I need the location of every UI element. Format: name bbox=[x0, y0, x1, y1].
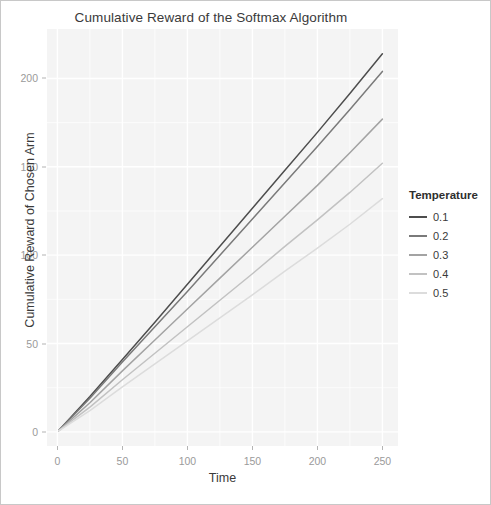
legend-item-label: 0.3 bbox=[433, 249, 448, 261]
legend-item-label: 0.5 bbox=[433, 287, 448, 299]
x-tick-label: 0 bbox=[37, 455, 77, 467]
chart-title: Cumulative Reward of the Softmax Algorit… bbox=[1, 10, 421, 25]
x-tick-label: 150 bbox=[232, 455, 272, 467]
legend-item-0.5[interactable]: 0.5 bbox=[409, 283, 478, 302]
legend-items: 0.10.20.30.40.5 bbox=[409, 207, 478, 302]
legend-title: Temperature bbox=[409, 189, 478, 201]
legend-item-0.2[interactable]: 0.2 bbox=[409, 226, 478, 245]
x-tick-mark bbox=[317, 446, 318, 450]
plot-area bbox=[47, 29, 398, 446]
y-tick-mark bbox=[42, 166, 46, 167]
legend: Temperature 0.10.20.30.40.5 bbox=[409, 189, 478, 302]
legend-item-0.4[interactable]: 0.4 bbox=[409, 264, 478, 283]
y-tick-mark bbox=[42, 78, 46, 79]
legend-item-0.3[interactable]: 0.3 bbox=[409, 245, 478, 264]
x-tick-label: 200 bbox=[297, 455, 337, 467]
series-line-0.5 bbox=[59, 199, 383, 431]
x-tick-label: 50 bbox=[102, 455, 142, 467]
x-tick-mark bbox=[187, 446, 188, 450]
series-line-0.3 bbox=[59, 119, 383, 431]
chart-figure: Cumulative Reward of the Softmax Algorit… bbox=[0, 0, 491, 505]
plot-panel bbox=[47, 29, 398, 446]
x-tick-label: 100 bbox=[167, 455, 207, 467]
x-tick-mark bbox=[57, 446, 58, 450]
x-tick-mark bbox=[252, 446, 253, 450]
legend-item-label: 0.1 bbox=[433, 211, 448, 223]
series-line-0.4 bbox=[59, 163, 383, 430]
y-tick-mark bbox=[42, 255, 46, 256]
x-axis: 050100150200250 bbox=[47, 446, 398, 474]
series-line-0.1 bbox=[59, 54, 383, 431]
legend-item-0.1[interactable]: 0.1 bbox=[409, 207, 478, 226]
legend-item-label: 0.4 bbox=[433, 268, 448, 280]
x-tick-mark bbox=[382, 446, 383, 450]
y-axis-title: Cumulative Reward of Chosen Arm bbox=[23, 22, 37, 439]
y-tick-mark bbox=[42, 343, 46, 344]
x-tick-mark bbox=[122, 446, 123, 450]
legend-line-icon bbox=[409, 287, 427, 298]
legend-item-label: 0.2 bbox=[433, 230, 448, 242]
x-tick-label: 250 bbox=[362, 455, 402, 467]
legend-line-icon bbox=[409, 230, 427, 241]
legend-line-icon bbox=[409, 211, 427, 222]
x-axis-title: Time bbox=[47, 471, 398, 485]
y-tick-mark bbox=[42, 431, 46, 432]
legend-line-icon bbox=[409, 268, 427, 279]
legend-line-icon bbox=[409, 249, 427, 260]
